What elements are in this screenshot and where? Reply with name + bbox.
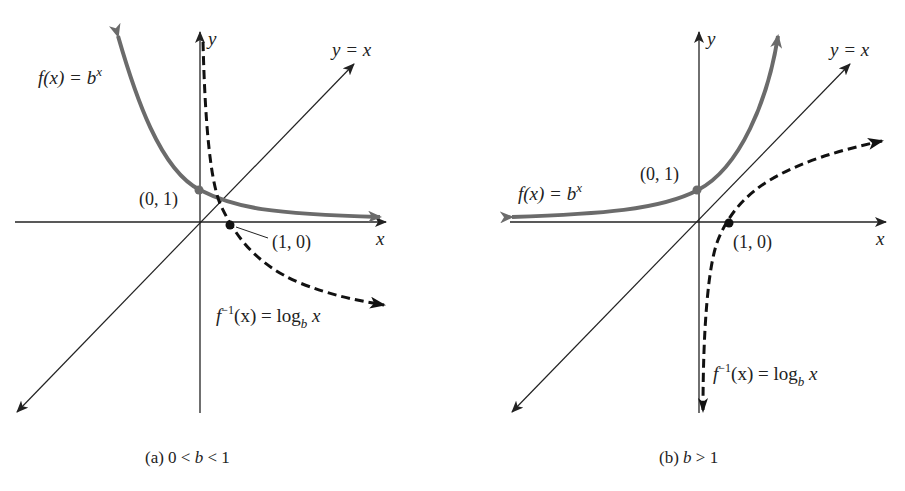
point-label-0-1: (0, 1) (139, 189, 178, 210)
panel-b: y x y = x f(x) = bx (0, 1) (1, 0) f−1(x)… (510, 28, 886, 467)
point-1-0 (725, 219, 734, 228)
x-axis-label: x (375, 228, 385, 249)
log-curve (203, 42, 384, 305)
log-label: f−1(x) = logb x (713, 361, 818, 389)
point-1-0 (226, 221, 235, 230)
point-label-1-0: (1, 0) (272, 232, 311, 253)
y-axis-label: y (705, 28, 716, 49)
caption-b: (b) b > 1 (659, 448, 718, 467)
log-label: f−1(x) = logb x (216, 303, 321, 331)
identity-line (512, 64, 850, 412)
point-label-0-1: (0, 1) (640, 164, 679, 185)
identity-label: y = x (330, 39, 372, 60)
identity-label: y = x (828, 39, 870, 60)
caption-a: (a) 0 < b < 1 (145, 448, 230, 467)
leader-line (236, 227, 268, 238)
panel-a: y x y = x f(x) = bx (0, 1) (1, 0) f−1(x)… (15, 28, 386, 467)
x-axis-label: x (875, 228, 885, 249)
figure-canvas: y x y = x f(x) = bx (0, 1) (1, 0) f−1(x)… (0, 0, 905, 491)
y-axis-label: y (206, 28, 217, 49)
exp-label: f(x) = bx (38, 64, 102, 89)
point-0-1 (195, 186, 204, 195)
exp-label: f(x) = bx (518, 180, 582, 205)
point-label-1-0: (1, 0) (733, 232, 772, 253)
point-0-1 (693, 186, 702, 195)
